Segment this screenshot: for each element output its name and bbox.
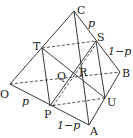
segment-PT: [42, 48, 50, 106]
label-A: A: [89, 125, 99, 138]
vertex-labels: C O B A T S P U Q R: [0, 4, 130, 138]
ratio-CS: p: [88, 17, 95, 30]
label-B: B: [122, 67, 130, 80]
label-S: S: [97, 31, 105, 44]
label-Q: Q: [57, 70, 66, 83]
segment-UP: [50, 98, 105, 106]
label-T: T: [33, 40, 41, 53]
diagonal-TU: [42, 48, 105, 98]
segment-TS: [42, 41, 96, 48]
label-O: O: [0, 88, 9, 101]
label-R: R: [79, 66, 88, 79]
label-P: P: [44, 108, 52, 121]
label-C: C: [77, 4, 85, 17]
tetrahedron-diagram: C O B A T S P U Q R p 1−p p 1−p: [0, 0, 133, 138]
ratio-OP: p: [22, 95, 29, 108]
cross-section: [42, 41, 105, 106]
ratio-PA: 1−p: [57, 119, 80, 132]
ratio-SB: 1−p: [108, 45, 131, 58]
label-U: U: [107, 96, 116, 109]
segment-SU: [96, 41, 105, 98]
